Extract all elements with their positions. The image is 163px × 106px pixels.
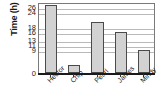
bar xyxy=(115,32,127,73)
bar-series xyxy=(39,4,154,73)
plot-area xyxy=(38,3,155,74)
y-axis-tick-label: 26 xyxy=(28,4,36,12)
bar xyxy=(91,22,103,73)
y-axis-tick-label: 0 xyxy=(32,70,36,78)
x-axis-tick-labels: HectorChipPearlJamesMindy xyxy=(38,74,155,106)
y-axis-tick-label: 13 xyxy=(28,37,36,45)
bar-chart: Time (h) 09111316182426 HectorChipPearlJ… xyxy=(0,0,163,106)
y-axis-tick-labels: 09111316182426 xyxy=(18,0,36,106)
y-axis-tick-label: 18 xyxy=(28,25,36,33)
bar xyxy=(45,5,57,73)
